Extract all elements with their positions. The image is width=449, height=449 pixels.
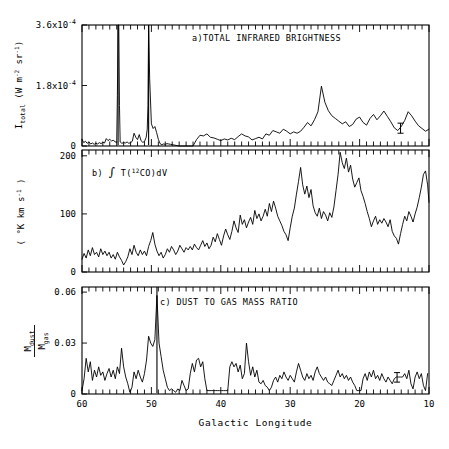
panel-b: 0100200b) ∫ T(12CO)dV — [60, 150, 429, 277]
xtick-label: 40 — [215, 399, 226, 409]
ytick-label: 200 — [60, 151, 76, 161]
xtick-label: 20 — [354, 399, 365, 409]
ytick-label: 1.8x10-4 — [36, 79, 76, 91]
figure-root: 01.8x10-43.6x10-4a)TOTAL INFRARED BRIGHT… — [0, 0, 449, 449]
panel-frame-a — [82, 25, 429, 146]
ytick-label: 0.06 — [54, 287, 76, 297]
ytick-label: 0 — [71, 389, 76, 399]
yaxis-title-c: MdustMgas — [23, 325, 50, 357]
ytick-label: 100 — [60, 209, 76, 219]
ytick-label: 0 — [71, 267, 76, 277]
ytick-label: 0.03 — [54, 338, 76, 348]
panel-c: 00.030.06605040302010c) DUST TO GAS MASS… — [54, 287, 434, 409]
data-trace-c — [82, 295, 428, 392]
yaxis-title-a: Itotal (W m-2 sr-1) — [13, 41, 28, 129]
panel-title-a: a)TOTAL INFRARED BRIGHTNESS — [192, 33, 341, 43]
ytick-label: 0 — [71, 141, 76, 151]
xaxis-title: Galactic Longitude — [199, 417, 313, 428]
xtick-label: 30 — [285, 399, 296, 409]
data-trace-a — [82, 25, 429, 146]
yaxis-title-b: ( °K km s-1 ) — [15, 179, 27, 246]
yaxis-title-c-denominator: Mgas — [37, 332, 50, 349]
panel-a: 01.8x10-43.6x10-4a)TOTAL INFRARED BRIGHT… — [36, 18, 429, 151]
xtick-label: 10 — [424, 399, 435, 409]
panel-title-c: c) DUST TO GAS MASS RATIO — [160, 297, 298, 307]
multi-panel-line-chart: 01.8x10-43.6x10-4a)TOTAL INFRARED BRIGHT… — [0, 0, 449, 449]
xtick-label: 50 — [146, 399, 157, 409]
yaxis-title-c-numerator: Mdust — [23, 330, 36, 351]
xtick-label: 60 — [77, 399, 88, 409]
panel-title-b: b) ∫ T(12CO)dV — [92, 165, 167, 179]
ytick-label: 3.6x10-4 — [36, 18, 76, 30]
